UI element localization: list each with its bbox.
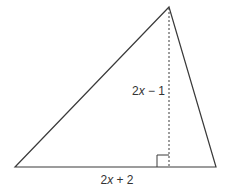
right-angle-marker	[157, 155, 169, 167]
triangle-diagram: 2x − 1 2x + 2	[0, 0, 233, 195]
height-label: 2x − 1	[132, 84, 165, 98]
triangle	[15, 7, 216, 167]
base-label: 2x + 2	[100, 173, 133, 187]
